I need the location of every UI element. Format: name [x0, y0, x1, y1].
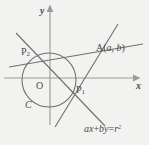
- point-label-p2: P2: [21, 47, 30, 58]
- point-label-a-prefix: A(: [96, 42, 107, 53]
- y-axis-arrow-icon: [47, 5, 54, 13]
- circle-label-c: C: [25, 100, 32, 110]
- y-axis-label: y: [40, 6, 44, 16]
- origin-label: O: [36, 81, 43, 91]
- figure-canvas: [0, 0, 149, 145]
- point-label-p1: P1: [76, 85, 85, 96]
- x-axis: [4, 75, 141, 82]
- tangent-line-at-p1: [55, 24, 118, 127]
- geometry-figure: y x O C P2 P1 A(a, b) ax+by=r2: [0, 0, 149, 145]
- equation-term-by: by: [99, 123, 108, 134]
- point-label-a-suffix: ): [122, 42, 125, 53]
- point-label-a: A(a, b): [96, 43, 125, 53]
- equation-label: ax+by=r2: [84, 124, 121, 134]
- equation-exponent: 2: [118, 123, 121, 130]
- x-axis-label: x: [136, 81, 141, 91]
- point-label-p2-subscript: 2: [27, 50, 31, 58]
- point-label-p1-subscript: 1: [82, 88, 86, 96]
